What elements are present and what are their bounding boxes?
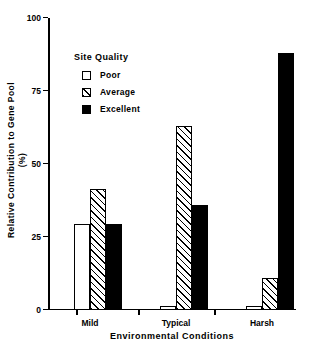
legend-item-average: Average xyxy=(74,87,140,97)
y-tick-label-25: 25 xyxy=(32,232,41,242)
x-tick-mild-typical xyxy=(138,310,140,315)
bar-harsh-average xyxy=(262,278,278,310)
bar-mild-poor xyxy=(74,224,90,310)
x-tick-left xyxy=(76,310,78,315)
x-label-mild: Mild xyxy=(82,318,99,328)
x-axis-title: Environmental Conditions xyxy=(48,331,296,341)
x-tick-typical-harsh xyxy=(214,310,216,315)
x-label-typical: Typical xyxy=(162,318,191,328)
bar-typical-average xyxy=(176,126,192,310)
x-label-harsh: Harsh xyxy=(250,318,274,328)
y-tick-label-50: 50 xyxy=(32,159,41,169)
bar-harsh-excellent xyxy=(278,53,294,310)
bar-mild-excellent xyxy=(106,224,122,310)
legend-swatch-average-icon xyxy=(82,88,91,97)
bar-typical-poor xyxy=(160,306,176,310)
legend-label-excellent: Excellent xyxy=(100,104,140,114)
y-axis-line xyxy=(48,18,50,310)
legend-label-average: Average xyxy=(100,87,135,97)
legend-swatch-poor-icon xyxy=(82,71,91,80)
y-axis-title-line1: Relative Contribution to Gene Pool xyxy=(6,82,16,238)
legend-item-poor: Poor xyxy=(74,70,140,80)
legend-swatch-excellent-icon xyxy=(82,105,91,114)
bar-harsh-poor xyxy=(246,306,262,310)
y-tick-label-0: 0 xyxy=(36,305,41,315)
legend-item-excellent: Excellent xyxy=(74,104,140,114)
legend-label-poor: Poor xyxy=(100,70,121,80)
y-tick-label-75: 75 xyxy=(32,86,41,96)
y-axis-title: Relative Contribution to Gene Pool (%) xyxy=(0,0,34,320)
legend: Site Quality Poor Average Excellent xyxy=(74,52,140,121)
bar-chart-figure: Relative Contribution to Gene Pool (%) 0… xyxy=(0,0,310,356)
bar-mild-average xyxy=(90,189,106,310)
legend-title: Site Quality xyxy=(74,52,140,62)
bar-typical-excellent xyxy=(192,205,208,310)
y-tick-label-100: 100 xyxy=(27,13,41,23)
y-axis-title-line2: (%) xyxy=(17,82,28,238)
